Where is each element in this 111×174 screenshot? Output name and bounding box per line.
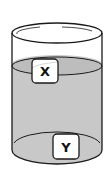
rim-highlight-right xyxy=(62,27,92,31)
object-y-label: Y xyxy=(60,140,71,155)
beaker-diagram: X Y xyxy=(0,0,111,174)
rim-highlight-left xyxy=(17,27,40,34)
beaker-rim xyxy=(12,23,102,43)
object-x: X xyxy=(32,59,58,83)
object-x-label: X xyxy=(40,64,50,79)
object-y: Y xyxy=(53,134,79,159)
